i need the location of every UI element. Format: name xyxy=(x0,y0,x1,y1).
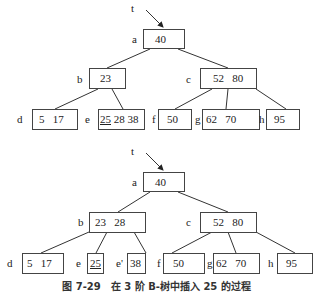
node-h: 95 xyxy=(266,109,300,130)
node-label: g xyxy=(195,113,201,125)
node-e-keys: 28 38 xyxy=(111,113,139,125)
node-label: d xyxy=(7,257,13,269)
root-pointer-label: t xyxy=(131,2,134,14)
node-label: d xyxy=(17,113,23,125)
node-b: 23 28 xyxy=(89,212,146,233)
node-label: a xyxy=(132,33,137,45)
node-label: b xyxy=(78,216,84,228)
node-h: 95 xyxy=(277,253,313,274)
node-e-prime: 38 xyxy=(127,253,146,274)
inserted-key: 25 xyxy=(100,113,111,125)
node-a: 40 xyxy=(143,29,185,49)
node-label: c xyxy=(186,73,191,85)
node-label: e xyxy=(85,113,90,125)
node-label: c xyxy=(186,216,191,228)
node-label: e xyxy=(76,257,81,269)
node-c: 52 80 xyxy=(200,68,257,89)
node-b: 23 xyxy=(89,68,126,89)
node-label: b xyxy=(77,73,83,85)
node-d: 5 17 xyxy=(22,253,64,274)
node-g: 62 70 xyxy=(202,109,260,130)
node-e: 25 xyxy=(87,253,104,274)
pointer-arrow xyxy=(146,10,163,27)
figure-caption: 图 7-29 在 3 阶 B-树中插入 25 的过程 xyxy=(0,278,313,292)
node-f: 50 xyxy=(158,109,192,130)
node-label: f xyxy=(157,257,161,269)
node-label: f xyxy=(152,113,156,125)
node-label: g xyxy=(207,257,213,269)
node-label: h xyxy=(268,257,274,269)
node-label: e' xyxy=(116,257,123,269)
node-e: 25 28 38 xyxy=(98,109,145,130)
node-label: a xyxy=(132,176,137,188)
node-f: 50 xyxy=(163,253,205,274)
node-label: h xyxy=(259,113,265,125)
root-pointer-label: t xyxy=(131,145,134,157)
node-g: 62 70 xyxy=(213,253,260,274)
node-a: 40 xyxy=(143,172,185,192)
node-c: 52 80 xyxy=(200,212,257,233)
node-d: 5 17 xyxy=(32,109,78,130)
inserted-key: 25 xyxy=(90,257,101,269)
